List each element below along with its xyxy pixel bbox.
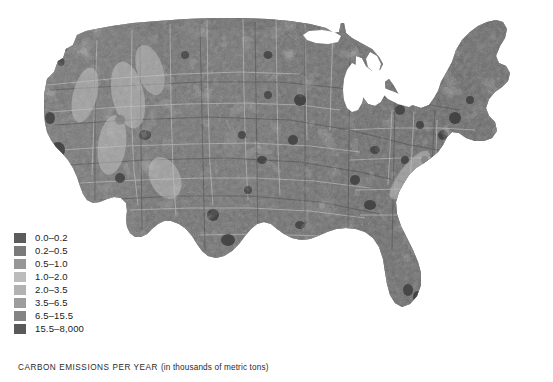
caption-sub: (in thousands of metric tons) xyxy=(161,363,269,372)
caption-main: CARBON EMISSIONS PER YEAR xyxy=(18,363,158,372)
legend-label-7: 15.5–8,000 xyxy=(35,324,84,334)
legend-swatch-7 xyxy=(14,324,26,334)
legend-label-4: 2.0–3.5 xyxy=(35,285,68,295)
legend-swatch-6 xyxy=(14,311,26,321)
legend-item: 0.5–1.0 xyxy=(14,257,84,270)
legend-item: 0.2–0.5 xyxy=(14,244,84,257)
legend-item: 15.5–8,000 xyxy=(14,322,84,335)
legend-label-3: 1.0–2.0 xyxy=(35,272,68,282)
legend-item: 6.5–15.5 xyxy=(14,309,84,322)
legend-item: 3.5–6.5 xyxy=(14,296,84,309)
lake-ontario xyxy=(417,83,437,91)
legend-swatch-2 xyxy=(14,259,26,269)
legend-swatch-1 xyxy=(14,246,26,256)
point-source-emitters xyxy=(20,5,540,355)
legend-label-0: 0.0–0.2 xyxy=(35,233,68,243)
legend-label-1: 0.2–0.5 xyxy=(35,246,68,256)
legend-swatch-4 xyxy=(14,285,26,295)
legend-item: 1.0–2.0 xyxy=(14,270,84,283)
legend-item: 0.0–0.2 xyxy=(14,231,84,244)
legend-label-5: 3.5–6.5 xyxy=(35,298,68,308)
legend-swatch-3 xyxy=(14,272,26,282)
figure-caption: CARBON EMISSIONS PER YEAR (in thousands … xyxy=(18,363,269,372)
legend-label-2: 0.5–1.0 xyxy=(35,259,68,269)
legend-swatch-5 xyxy=(14,298,26,308)
legend-item: 2.0–3.5 xyxy=(14,283,84,296)
legend-label-6: 6.5–15.5 xyxy=(35,311,73,321)
carbon-emissions-figure: 0.0–0.2 0.2–0.5 0.5–1.0 1.0–2.0 2.0–3.5 … xyxy=(0,0,553,382)
map-legend: 0.0–0.2 0.2–0.5 0.5–1.0 1.0–2.0 2.0–3.5 … xyxy=(14,231,84,335)
legend-swatch-0 xyxy=(14,233,26,243)
